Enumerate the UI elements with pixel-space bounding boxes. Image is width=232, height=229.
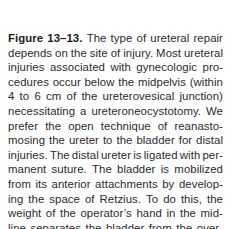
page-top-margin [0, 0, 232, 31]
caption-word: technique [101, 119, 151, 134]
caption-word: distal [196, 133, 223, 148]
caption-word: the [81, 89, 97, 104]
caption-word: ing [8, 192, 23, 207]
caption-word: do [163, 192, 176, 207]
caption-word: associated [50, 60, 105, 75]
caption-line: injuriesassociatedwithgynecologicpro- [8, 60, 223, 75]
caption-word: The [92, 162, 112, 177]
caption-word: this, [181, 192, 202, 207]
caption-word: Retzius. [100, 192, 142, 207]
caption-line: dependsonthesiteofinjury.Mostureteral [8, 46, 223, 61]
caption-word: to [20, 89, 30, 104]
caption-word: injuries. [8, 148, 48, 163]
caption-word: is [161, 162, 169, 177]
caption-word: type [111, 31, 133, 46]
caption-line: injuries.Thedistalureterisligatedwithper… [8, 148, 223, 163]
caption-word: by [162, 177, 174, 192]
caption-word: mobilized [174, 162, 223, 177]
caption-word: ureteroneocystotomy. [91, 104, 201, 119]
caption-word: The [50, 148, 70, 163]
caption-word: midpelvis [138, 75, 186, 90]
caption-word: occur [53, 75, 81, 90]
caption-word: gynecologic [136, 60, 197, 75]
caption-word: ligated [144, 148, 178, 163]
caption-word: of [85, 192, 95, 207]
caption-word: the [49, 133, 65, 148]
caption-line: 4to6cmoftheureterovesicaljunction) [8, 89, 223, 104]
caption-word: ureteral [150, 31, 189, 46]
caption-word: of [67, 89, 77, 104]
caption-word: to [103, 133, 113, 148]
caption-word: depends [8, 46, 52, 61]
caption-word: Most [156, 46, 181, 61]
caption-word: the [28, 192, 44, 207]
caption-word: of [137, 31, 147, 46]
caption-word: manent [8, 162, 46, 177]
caption-line: prefertheopentechniqueofreanasto- [8, 119, 223, 134]
caption-word: ureter [101, 148, 131, 163]
caption-word: (within [190, 75, 223, 90]
caption-word: site [90, 46, 108, 61]
caption-word: of [111, 46, 121, 61]
caption-word: the [207, 192, 223, 207]
caption-word: suture. [52, 162, 87, 177]
caption-word: its [36, 177, 48, 192]
caption-word: develop- [179, 177, 223, 192]
caption-word: To [146, 192, 158, 207]
caption-word: cedures [8, 75, 49, 90]
caption-word: the [116, 133, 132, 148]
caption-word: necessitating [8, 104, 75, 119]
caption-word: 6 [34, 89, 40, 104]
caption-word: prefer [8, 119, 38, 134]
caption-word: bladder [136, 133, 174, 148]
caption-word: a [80, 104, 86, 119]
caption-word: with [110, 60, 130, 75]
caption-word: We [206, 104, 223, 119]
figure-label-word: Figure [8, 31, 43, 46]
caption-word: attachments [95, 177, 158, 192]
figure-label-word: 13–13. [47, 31, 82, 46]
caption-word: distal [72, 148, 99, 163]
caption-word: junction) [179, 89, 223, 104]
caption-line: ingthespaceofRetzius.Todothis,the [8, 192, 223, 207]
caption-word: is [133, 148, 141, 163]
caption-line: mosingtheuretertothebladderfordistal [8, 133, 223, 148]
caption-word: on [55, 46, 68, 61]
caption-line: manentsuture.Thebladderismobilized [8, 162, 223, 177]
caption-word: anterior [52, 177, 91, 192]
caption-word: cm [46, 89, 61, 104]
caption-word: from [8, 177, 31, 192]
caption-line: necessitatingaureteroneocystotomy.We [8, 104, 223, 119]
caption-line: ceduresoccurbelowthemidpelvis(within [8, 75, 223, 90]
caption-word: The [87, 31, 107, 46]
caption-word: space [49, 192, 80, 207]
caption-word: ureter [69, 133, 99, 148]
caption-word: 4 [8, 89, 14, 104]
caption-word: pro- [203, 60, 223, 75]
caption-word: repair [194, 31, 223, 46]
caption-word: the [45, 119, 61, 134]
caption-word: of [158, 119, 168, 134]
caption-word: open [68, 119, 94, 134]
caption-word: the [71, 46, 87, 61]
caption-line: fromitsanteriorattachmentsbydevelop- [8, 177, 223, 192]
caption-word: for [179, 133, 192, 148]
page-bottom-margin [0, 214, 232, 229]
caption-word: injury. [123, 46, 153, 61]
caption-word: below [84, 75, 114, 90]
caption-word: mosing [8, 133, 45, 148]
caption-word: with [180, 148, 200, 163]
document-page: Figure13–13.Thetypeofureteralrepairdepen… [0, 0, 232, 229]
caption-word: ureterovesical [103, 89, 175, 104]
caption-word: per- [202, 148, 222, 163]
figure-caption: Figure13–13.Thetypeofureteralrepairdepen… [8, 31, 223, 229]
caption-line: Figure13–13.Thetypeofureteralrepair [8, 31, 223, 46]
caption-word: ureteral [184, 46, 223, 61]
caption-word: reanasto- [174, 119, 223, 134]
caption-word: bladder [117, 162, 155, 177]
caption-word: injuries [8, 60, 45, 75]
caption-word: the [118, 75, 134, 90]
